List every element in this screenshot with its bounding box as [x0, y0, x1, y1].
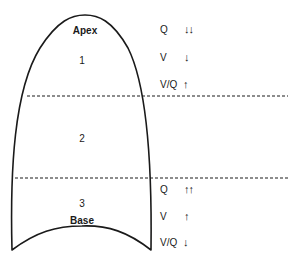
up-arrow-icon: ↑ [183, 78, 188, 90]
double-up-arrow-icon: ↑↑ [184, 183, 193, 195]
lung-outline-diagram [0, 0, 303, 270]
zone-3-label: 3 [79, 198, 85, 210]
double-down-arrow-icon: ↓↓ [184, 23, 193, 35]
apex-perfusion-label: Q [160, 24, 168, 36]
apex-ventilation-label: V [160, 52, 167, 64]
base-perfusion-label: Q [160, 184, 168, 196]
down-arrow-icon: ↓ [183, 236, 188, 248]
apex-vq-ratio-label: V/Q [160, 79, 177, 91]
up-arrow-icon: ↑ [184, 210, 189, 222]
apex-label: Apex [73, 25, 97, 37]
down-arrow-icon: ↓ [184, 51, 189, 63]
base-vq-ratio-label: V/Q [160, 237, 177, 249]
zone-2-label: 2 [79, 133, 85, 145]
base-ventilation-label: V [160, 211, 167, 223]
base-label: Base [70, 215, 94, 227]
zone-1-label: 1 [79, 55, 85, 67]
